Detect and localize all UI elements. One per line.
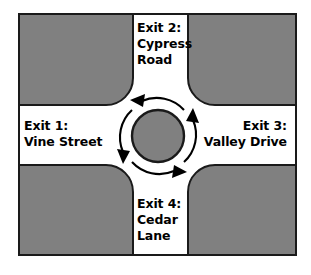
roundabout-map-graphic — [0, 0, 311, 275]
roundabout-diagram: Exit 1: Vine Street Exit 2: Cypress Road… — [0, 0, 311, 275]
block-northwest — [19, 14, 133, 105]
block-southeast — [188, 165, 296, 255]
roundabout-island — [132, 110, 184, 162]
block-southwest — [19, 165, 133, 255]
block-northeast — [188, 14, 296, 105]
